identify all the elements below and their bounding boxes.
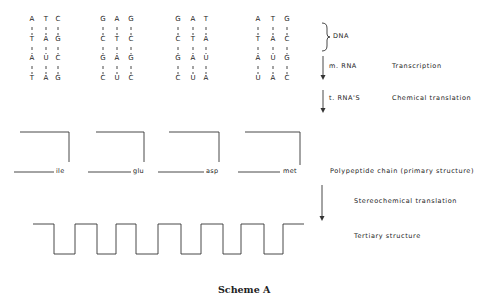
arrowhead-icon — [320, 216, 325, 221]
nucleotide-base: G — [55, 35, 60, 43]
diagram-lines — [0, 0, 480, 297]
amino-acid-ile: ile — [56, 167, 65, 175]
nucleotide-base: A — [30, 15, 35, 23]
nucleotide-base: A — [271, 35, 276, 43]
nucleotide-base: A — [44, 35, 49, 43]
nucleotide-base: C — [176, 74, 181, 82]
nucleotide-base: T — [30, 74, 34, 82]
nucleotide-base: U — [255, 74, 260, 82]
label-mrna: m. RNA — [329, 62, 357, 70]
tertiary-structure-wave — [33, 224, 304, 254]
nucleotide-base: T — [30, 35, 34, 43]
nucleotide-base: T — [44, 15, 48, 23]
nucleotide-base: A — [271, 74, 276, 82]
nucleotide-base: G — [128, 54, 133, 62]
label-transcription: Transcription — [392, 62, 442, 70]
nucleotide-base: A — [44, 74, 49, 82]
nucleotide-base: G — [284, 54, 289, 62]
label-tertiary: Tertiary structure — [354, 232, 421, 240]
nucleotide-base: A — [204, 74, 209, 82]
amino-acid-met: met — [283, 167, 297, 175]
nucleotide-base: A — [204, 35, 209, 43]
nucleotide-base: A — [115, 15, 120, 23]
nucleotide-base: A — [256, 54, 261, 62]
nucleotide-base: U — [114, 74, 119, 82]
nucleotide-base: C — [101, 74, 106, 82]
label-trna: t. RNA'S — [329, 94, 360, 102]
label-dna: DNA — [333, 32, 349, 40]
nucleotide-base: G — [284, 15, 289, 23]
amino-acid-asp: asp — [206, 167, 218, 175]
nucleotide-base: A — [256, 15, 261, 23]
arrowhead-icon — [321, 108, 326, 113]
nucleotide-base: G — [100, 54, 105, 62]
label-chemical-translation: Chemical translation — [392, 94, 471, 102]
caption: Scheme A — [218, 284, 270, 295]
bond-bars — [32, 27, 287, 74]
brace-icon — [322, 23, 330, 51]
nucleotide-base: C — [101, 35, 106, 43]
arrowhead-icon — [321, 75, 326, 80]
nucleotide-base: C — [129, 35, 134, 43]
nucleotide-base: C — [285, 35, 290, 43]
nucleotide-base: A — [30, 54, 35, 62]
nucleotide-base: A — [191, 15, 196, 23]
nucleotide-base: T — [204, 15, 208, 23]
nucleotide-base: G — [128, 15, 133, 23]
nucleotide-base: T — [115, 35, 119, 43]
nucleotide-base: U — [270, 54, 275, 62]
nucleotide-base: T — [256, 35, 260, 43]
nucleotide-base: A — [191, 54, 196, 62]
nucleotide-base: C — [56, 54, 61, 62]
label-stereochemical: Stereochemical translation — [354, 197, 457, 205]
nucleotide-base: U — [43, 54, 48, 62]
nucleotide-base: U — [203, 54, 208, 62]
nucleotide-base: G — [175, 54, 180, 62]
label-polypeptide: Polypeptide chain (primary structure) — [330, 167, 474, 175]
nucleotide-base: A — [115, 54, 120, 62]
nucleotide-base: C — [176, 35, 181, 43]
nucleotide-base: G — [100, 15, 105, 23]
nucleotide-base: U — [190, 74, 195, 82]
nucleotide-base: T — [271, 15, 275, 23]
nucleotide-base: G — [55, 74, 60, 82]
polypeptide-chain — [14, 132, 300, 172]
nucleotide-base: C — [285, 74, 290, 82]
amino-acid-glu: glu — [133, 167, 144, 175]
nucleotide-base: T — [191, 35, 195, 43]
nucleotide-base: C — [56, 15, 61, 23]
nucleotide-base: G — [175, 15, 180, 23]
nucleotide-base: C — [129, 74, 134, 82]
